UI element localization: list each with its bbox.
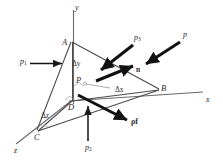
vertex-label-c: C [34, 133, 40, 142]
arrow-p [146, 42, 180, 64]
vertex-label-a: A [62, 38, 67, 47]
dimension-label-delta-z: Δz [41, 112, 49, 120]
p-marker-dot [84, 82, 87, 85]
dimension-label-delta-y: Δy [72, 60, 81, 68]
axis-label-y: y [75, 4, 79, 12]
vertex-label-d: D [68, 103, 74, 112]
vector-label-p2: p2 [85, 144, 92, 152]
axis-label-x: x [206, 96, 210, 104]
vector-label-p1: p1 [20, 58, 27, 66]
axis-label-z: z [14, 147, 17, 155]
dimension-label-delta-x: Δx [115, 86, 124, 94]
vector-label-rho-f: ρf [131, 118, 138, 126]
figure-canvas: y x z A B C D P Δy Δx Δz p1 p2 p3 p n ρf [0, 0, 223, 162]
point-label-p: P [76, 76, 81, 85]
vector-label-p3: p3 [134, 34, 141, 42]
tetrahedron-edges [37, 42, 159, 131]
edge-c-b [38, 90, 159, 131]
vector-label-normal-n: n [136, 66, 140, 74]
vertex-label-b: B [161, 84, 166, 93]
p-to-deltax-leader [86, 84, 110, 88]
vector-label-p: p [183, 31, 187, 39]
